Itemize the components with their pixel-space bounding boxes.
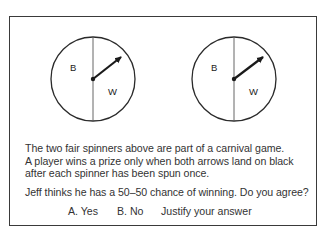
problem-line-1: The two fair spinners above are part of …	[25, 142, 294, 155]
justify-instruction: Justify your answer	[161, 205, 252, 217]
option-a-yes[interactable]: A. Yes	[68, 205, 98, 217]
question-text: Jeff thinks he has a 50–50 chance of win…	[25, 186, 309, 199]
spinner-right: B W	[192, 37, 276, 121]
spinner-left-arrow-icon	[93, 57, 121, 79]
spinner-right-pivot	[232, 77, 236, 81]
spinner-right-arrow-icon	[234, 57, 263, 79]
problem-line-2: A player wins a prize only when both arr…	[25, 155, 294, 168]
spinner-right-label-b: B	[211, 62, 217, 73]
spinners-figure: B W B W	[0, 0, 323, 238]
problem-line-3: after each spinner has been spun once.	[25, 167, 294, 180]
option-b-no[interactable]: B. No	[117, 205, 144, 217]
spinner-left: B W	[51, 37, 135, 121]
spinner-right-label-w: W	[249, 86, 258, 97]
problem-statement: The two fair spinners above are part of …	[25, 142, 294, 180]
spinner-left-label-w: W	[108, 86, 117, 97]
spinner-left-label-b: B	[70, 62, 76, 73]
spinner-left-pivot	[91, 77, 95, 81]
